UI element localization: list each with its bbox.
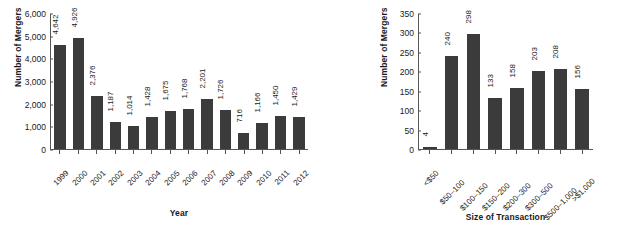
- bar-value-label: 1,768: [180, 79, 189, 99]
- y-axis-tick-mark: [418, 33, 421, 34]
- bar[interactable]: [256, 123, 267, 149]
- y-axis-tick-label: 100: [400, 106, 418, 116]
- x-axis-line: [418, 149, 593, 150]
- y-axis-tick-mark: [418, 52, 421, 53]
- y-axis-tick-label: 150: [400, 87, 418, 97]
- y-axis-tick-label: 250: [400, 48, 418, 58]
- bar[interactable]: [423, 147, 437, 149]
- bar-slot: 1,166: [253, 14, 271, 149]
- y-axis-tick-mark: [418, 72, 421, 73]
- bar-slot: 2,376: [88, 14, 106, 149]
- bar-value-label: 1,675: [161, 81, 170, 101]
- y-axis-tick-mark: [418, 91, 421, 92]
- x-axis-tick-mark: [225, 150, 226, 154]
- x-axis-tick-mark: [115, 150, 116, 154]
- bar-value-label: 240: [443, 33, 452, 46]
- x-axis-tick-mark: [299, 150, 300, 154]
- bar-value-label: 4,642: [51, 14, 60, 34]
- bar[interactable]: [467, 34, 481, 149]
- bar[interactable]: [146, 117, 157, 149]
- bar-value-label: 1,450: [271, 86, 280, 106]
- bar-slot: 4,642: [51, 14, 69, 149]
- bar-slot: 203: [528, 14, 550, 149]
- x-axis-tick-mark: [244, 150, 245, 154]
- bar-slot: 1,429: [290, 14, 308, 149]
- bar-slot: 1,014: [124, 14, 142, 149]
- plot-area: 4240298133158203208156 05010015020025030…: [418, 14, 593, 150]
- bar[interactable]: [165, 111, 176, 149]
- bar[interactable]: [575, 89, 589, 149]
- bar-value-label: 1,726: [216, 80, 225, 100]
- bar-slot: 1,187: [106, 14, 124, 149]
- y-axis-tick-label: 300: [400, 28, 418, 38]
- bar[interactable]: [128, 126, 139, 149]
- bar-value-label: 2,376: [88, 65, 97, 85]
- bar-slot: 1,428: [143, 14, 161, 149]
- bar[interactable]: [445, 56, 459, 149]
- y-axis-tick-label: 200: [400, 67, 418, 77]
- bar[interactable]: [54, 45, 65, 149]
- bar-slot: 1,450: [271, 14, 289, 149]
- bar[interactable]: [554, 69, 568, 149]
- bar-slot: 1,726: [216, 14, 234, 149]
- x-axis-tick-mark: [495, 150, 496, 154]
- bar[interactable]: [510, 88, 524, 149]
- bar-value-label: 1,428: [143, 86, 152, 106]
- x-axis-tick-mark: [133, 150, 134, 154]
- bar-slot: 158: [506, 14, 528, 149]
- bar-value-label: 1,187: [106, 92, 115, 112]
- bar[interactable]: [73, 38, 84, 149]
- bar-slot: 1,768: [180, 14, 198, 149]
- x-axis-tick-label: 2005: [162, 169, 181, 188]
- bar[interactable]: [110, 122, 121, 149]
- x-axis-tick-mark: [151, 150, 152, 154]
- x-axis-tick-label: <$50: [421, 169, 440, 188]
- y-axis-tick-mark: [418, 150, 421, 151]
- x-axis-line: [50, 149, 308, 150]
- bar[interactable]: [293, 117, 304, 149]
- bar-slot: 4,926: [69, 14, 87, 149]
- figure-panel: Number of Mergers 4,6424,9262,3761,1871,…: [0, 0, 622, 234]
- y-axis-tick-mark: [50, 82, 53, 83]
- x-axis-tick-label: 2003: [126, 169, 145, 188]
- y-axis-tick-mark: [50, 14, 53, 15]
- y-axis-tick-mark: [50, 59, 53, 60]
- bar-value-label: 2,201: [198, 69, 207, 89]
- bar[interactable]: [238, 133, 249, 149]
- x-axis-tick-mark: [59, 150, 60, 154]
- bar-slot: 298: [463, 14, 485, 149]
- bar-series: 4240298133158203208156: [419, 14, 593, 149]
- y-axis-tick-label: 4,000: [25, 54, 50, 64]
- x-axis-tick-mark: [538, 150, 539, 154]
- x-axis-tick-mark: [473, 150, 474, 154]
- bar-value-label: 1,429: [290, 86, 299, 106]
- y-axis-tick-label: 5,000: [25, 32, 50, 42]
- bar[interactable]: [220, 110, 231, 149]
- y-axis-tick-mark: [418, 130, 421, 131]
- y-axis-tick-label: 3,000: [25, 77, 50, 87]
- y-axis-tick-mark: [50, 36, 53, 37]
- bar[interactable]: [275, 116, 286, 149]
- x-axis-tick-label: 2007: [199, 169, 218, 188]
- x-axis-tick-label: 2001: [89, 169, 108, 188]
- y-axis-tick-label: 6,000: [25, 9, 50, 19]
- bar[interactable]: [201, 99, 212, 149]
- plot-area: 4,6424,9262,3761,1871,0141,4281,6751,768…: [50, 14, 308, 150]
- bar[interactable]: [532, 71, 546, 149]
- bar-slot: 716: [235, 14, 253, 149]
- y-axis-tick-label: 0: [409, 145, 418, 155]
- bar[interactable]: [488, 98, 502, 149]
- bar-slot: 240: [441, 14, 463, 149]
- x-axis-tick-label: 2011: [273, 168, 292, 187]
- bar-slot: 133: [484, 14, 506, 149]
- y-axis-tick-label: 2,000: [25, 100, 50, 110]
- x-axis-tick-mark: [96, 150, 97, 154]
- chart-mergers-by-year: Number of Mergers 4,6424,9262,3761,1871,…: [0, 0, 330, 234]
- x-axis-tick-label: 2012: [291, 169, 310, 188]
- x-axis-tick-mark: [188, 150, 189, 154]
- bar[interactable]: [183, 109, 194, 149]
- bar-slot: 156: [571, 14, 593, 149]
- bar-value-label: 298: [464, 10, 473, 23]
- x-axis-tick-mark: [280, 150, 281, 154]
- bar[interactable]: [91, 96, 102, 149]
